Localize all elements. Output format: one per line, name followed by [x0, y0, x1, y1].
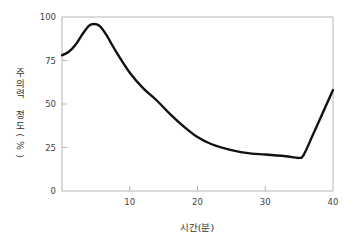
- y-axis-title-char: 력: [16, 88, 25, 99]
- y-axis-title-char: 주: [16, 67, 25, 78]
- x-tick-label: 20: [192, 197, 203, 207]
- y-tick-label: 100: [40, 12, 56, 22]
- y-axis-title-char: ): [15, 154, 26, 158]
- y-axis-title-char: 의: [16, 78, 25, 89]
- y-tick-label: 75: [45, 56, 56, 66]
- x-axis-title: 시간(분): [180, 222, 214, 233]
- y-tick-label: 0: [51, 186, 56, 196]
- x-axis-ticks: 10203040: [124, 186, 338, 207]
- y-axis-title-char: 정: [16, 109, 25, 120]
- y-axis-title-char: (: [15, 133, 26, 137]
- attention-curve: [62, 24, 333, 158]
- y-tick-label: 50: [45, 99, 56, 109]
- plot-frame: [62, 17, 333, 191]
- x-tick-label: 10: [124, 197, 135, 207]
- x-tick-label: 40: [328, 197, 339, 207]
- line-chart: 0255075100 10203040 시간(분) 주의력정도(%): [0, 0, 356, 242]
- y-axis-title-char: %: [15, 141, 26, 150]
- y-axis-title: 주의력정도(%): [15, 67, 26, 158]
- y-axis-ticks: 0255075100: [40, 12, 67, 196]
- y-tick-label: 25: [45, 143, 56, 153]
- x-tick-label: 30: [260, 197, 271, 207]
- y-axis-title-char: 도: [16, 120, 25, 131]
